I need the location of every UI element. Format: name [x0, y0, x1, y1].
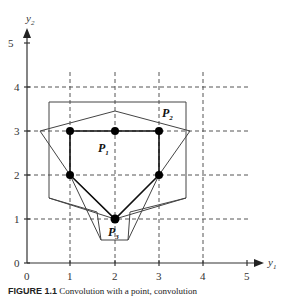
- y-axis-arrow-icon: [23, 28, 31, 38]
- svg-text:1: 1: [14, 213, 20, 225]
- svg-text:2: 2: [14, 169, 20, 181]
- grid-lines: [27, 72, 250, 263]
- figure-caption: FIGURE 1.1 Convolution with a point, con…: [8, 286, 197, 296]
- svg-text:0: 0: [24, 270, 30, 282]
- svg-text:5: 5: [244, 270, 250, 282]
- svg-text:4: 4: [14, 81, 20, 93]
- point-p1: [111, 127, 119, 135]
- label-p1: P1: [98, 141, 109, 157]
- point-1-2: [66, 171, 74, 179]
- point-3-2: [155, 171, 163, 179]
- svg-text:3: 3: [14, 125, 20, 137]
- svg-text:2: 2: [112, 270, 118, 282]
- label-p2: P2: [162, 106, 173, 122]
- diagram: P1 P2 P3 5 4 3 2 1 0 0 1 2 3 4 5 y2 y1: [0, 0, 290, 296]
- y-tick-labels: 5 4 3 2 1 0: [8, 37, 20, 269]
- svg-text:5: 5: [8, 37, 14, 49]
- y-axis-label: y2: [25, 12, 35, 27]
- point-p3: [111, 215, 120, 224]
- svg-text:0: 0: [14, 257, 20, 269]
- x-axis-label: y1: [267, 256, 276, 271]
- svg-text:1: 1: [67, 270, 73, 282]
- svg-text:4: 4: [200, 270, 206, 282]
- x-tick-labels: 0 1 2 3 4 5: [24, 270, 250, 282]
- svg-text:3: 3: [156, 270, 162, 282]
- label-p3: P3: [108, 225, 119, 241]
- caption-label: FIGURE 1.1: [8, 286, 57, 296]
- point-1-3: [66, 127, 74, 135]
- axes: [24, 36, 258, 266]
- x-axis-arrow-icon: [254, 259, 264, 267]
- point-p2: [155, 127, 163, 135]
- caption-text: Convolution with a point, convolution: [59, 286, 197, 296]
